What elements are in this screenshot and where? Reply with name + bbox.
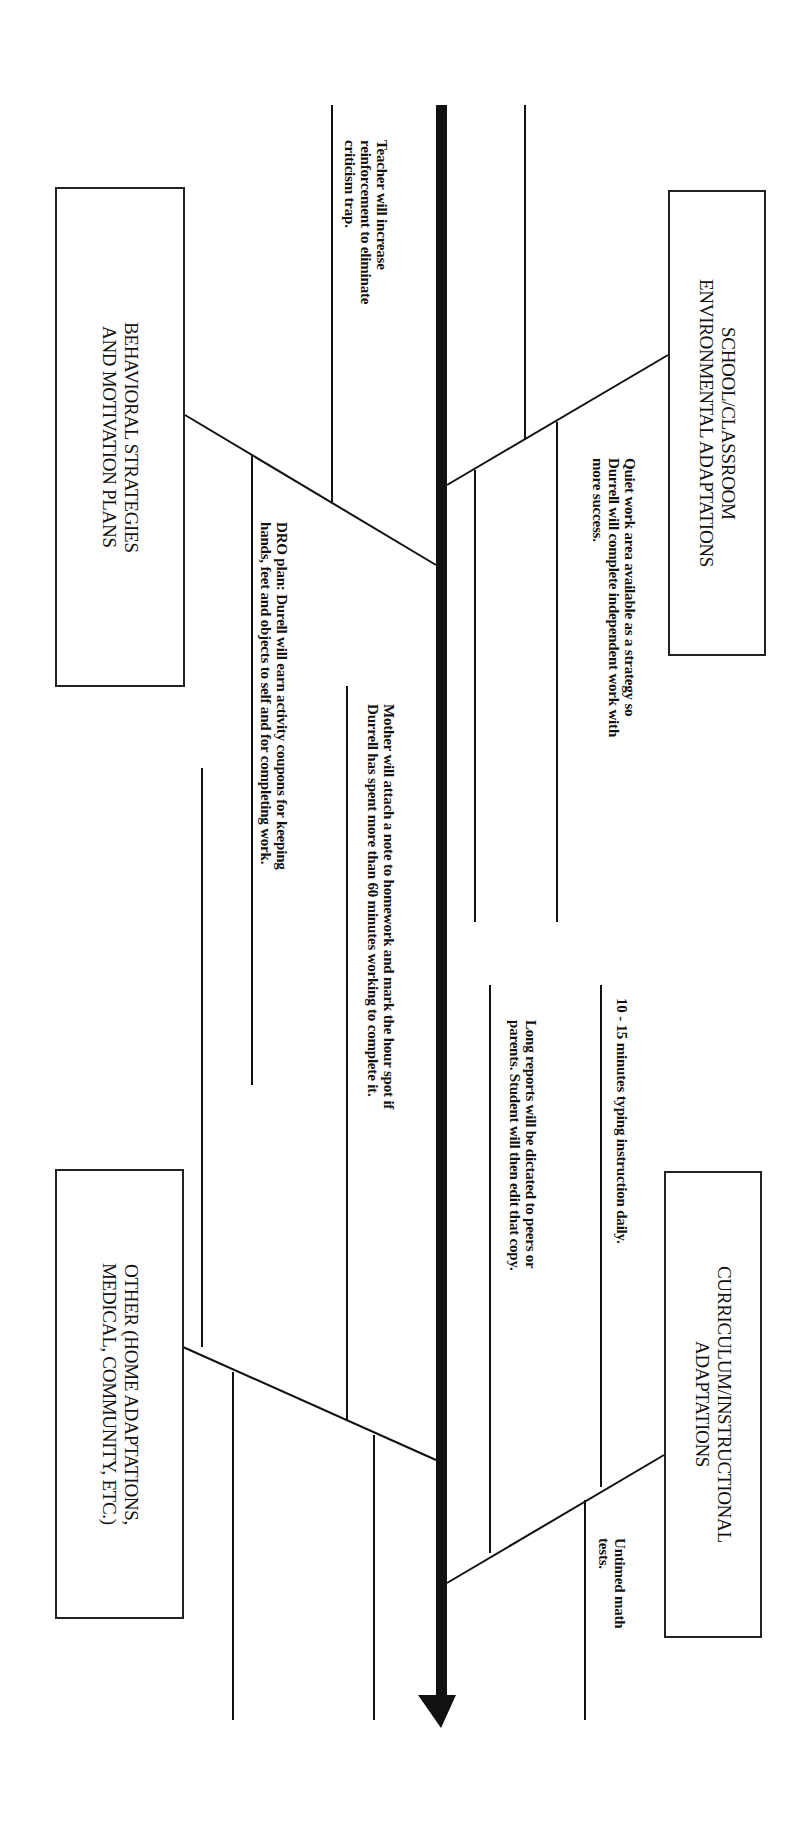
note-dro-plan: DRO plan: Durell will earn activity coup… — [258, 522, 290, 870]
fishbone-diagram: SCHOOL/CLASSROOM ENVIRONMENTAL ADAPTATIO… — [0, 0, 810, 1821]
curriculum-branch — [447, 985, 664, 1720]
note-typing-instruction: 10 - 15 minutes typing instruction daily… — [614, 998, 630, 1244]
note-long-reports: Long reports will be dictated to peers o… — [507, 1020, 539, 1271]
spine-arrow — [418, 105, 456, 1728]
category-box-curriculum: CURRICULUM/INSTRUCTIONAL ADAPTATIONS — [664, 1171, 762, 1638]
note-mother-homework: Mother will attach a note to homework an… — [365, 704, 397, 1109]
category-box-behavioral: BEHAVIORAL STRATEGIES AND MOTIVATION PLA… — [55, 187, 185, 687]
category-label-other: OTHER (HOME ADAPTATIONS, MEDICAL, COMMUN… — [98, 1263, 142, 1525]
category-label-behavioral: BEHAVIORAL STRATEGIES AND MOTIVATION PLA… — [98, 322, 142, 553]
category-label-curriculum: CURRICULUM/INSTRUCTIONAL ADAPTATIONS — [691, 1266, 735, 1543]
note-teacher-reinforcement: Teacher will increase reinforcement to e… — [342, 140, 390, 304]
category-label-school: SCHOOL/CLASSROOM ENVIRONMENTAL ADAPTATIO… — [695, 279, 739, 567]
other-branch — [183, 1347, 436, 1720]
behavioral-branch — [185, 105, 436, 1420]
category-box-school: SCHOOL/CLASSROOM ENVIRONMENTAL ADAPTATIO… — [668, 190, 766, 656]
category-box-other: OTHER (HOME ADAPTATIONS, MEDICAL, COMMUN… — [55, 1169, 184, 1619]
note-untimed-math: Untimed math tests. — [596, 1538, 628, 1629]
note-quiet-work-area: Quiet work area available as a strategy … — [590, 458, 638, 737]
school-branch — [447, 105, 668, 1487]
